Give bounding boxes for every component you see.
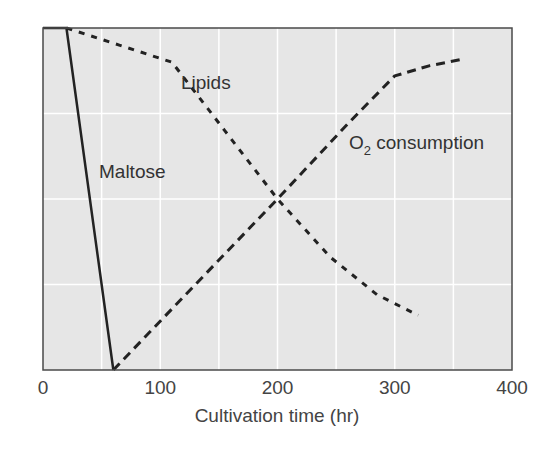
line-chart: 0100200300400 Cultivation time (hr) Lipi… (0, 0, 560, 455)
o2-label-prefix: O (349, 132, 364, 153)
x-tick-label: 100 (144, 377, 176, 398)
x-axis-ticks: 0100200300400 (38, 377, 528, 398)
x-tick-label: 200 (262, 377, 294, 398)
x-tick-label: 0 (38, 377, 49, 398)
o2-label-subscript: 2 (364, 143, 371, 158)
series-label-lipids: Lipids (181, 72, 231, 93)
x-tick-label: 400 (496, 377, 528, 398)
x-axis-title: Cultivation time (hr) (195, 405, 360, 426)
series-label-maltose: Maltose (99, 161, 166, 182)
o2-label-suffix: consumption (371, 132, 484, 153)
x-tick-label: 300 (379, 377, 411, 398)
